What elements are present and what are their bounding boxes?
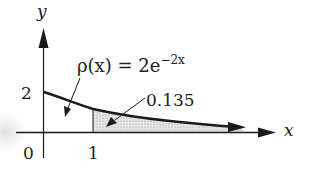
origin-label: 0 <box>23 143 34 163</box>
formula-leader-arrow-icon <box>64 106 71 117</box>
x-axis-arrow-icon <box>258 128 276 138</box>
y-axis-label: y <box>36 1 47 21</box>
curve-formula-base: ρ(x) = 2e <box>77 55 160 76</box>
y-axis-arrow-icon <box>39 28 49 48</box>
curve-formula-exponent: −2x <box>160 53 185 67</box>
curve-formula-label: ρ(x) = 2e−2x <box>77 53 185 76</box>
tail-area-value-label: 0.135 <box>146 90 195 110</box>
x-tick-label: 1 <box>88 143 99 163</box>
x-axis-label: x <box>284 120 294 140</box>
density-plot: y x 0 1 2 ρ(x) = 2e−2x 0.135 <box>0 0 311 174</box>
y-tick-label: 2 <box>21 83 32 103</box>
